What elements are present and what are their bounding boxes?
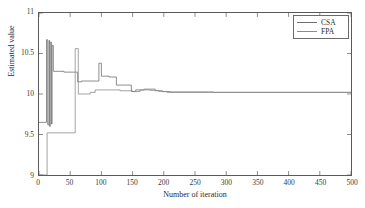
x-tick-label: 300 [221, 179, 232, 187]
x-tick-label: 0 [36, 179, 40, 187]
y-tick-label: 11 [27, 8, 34, 16]
legend-swatch-fpa [297, 31, 317, 32]
chart-legend: CSA FPA [293, 15, 349, 39]
x-tick-label: 100 [95, 179, 106, 187]
x-tick-label: 350 [252, 179, 263, 187]
y-axis-tick-labels: 99.51010.511 [0, 12, 34, 176]
y-axis-title: Estimated value [8, 4, 16, 99]
legend-item-csa: CSA [297, 18, 345, 27]
legend-label-fpa: FPA [321, 28, 334, 36]
x-tick-label: 500 [346, 179, 357, 187]
y-tick-label: 9.5 [25, 131, 34, 139]
legend-swatch-csa [297, 22, 317, 23]
y-tick-label: 10.5 [21, 49, 34, 57]
y-tick-label: 9 [30, 172, 34, 180]
x-tick-label: 450 [315, 179, 326, 187]
x-tick-label: 150 [127, 179, 138, 187]
chart-figure: 99.51010.511 Estimated value CSA FPA 050… [0, 0, 365, 208]
y-tick-label: 10 [27, 90, 35, 98]
x-tick-label: 50 [66, 179, 74, 187]
plot-area: CSA FPA [38, 12, 352, 176]
legend-item-fpa: FPA [297, 27, 345, 36]
x-axis-title: Number of iteration [38, 191, 352, 199]
legend-label-csa: CSA [321, 19, 336, 27]
series-line-csa [39, 40, 351, 127]
x-tick-label: 250 [189, 179, 200, 187]
series-line-fpa [39, 49, 351, 175]
x-tick-label: 400 [284, 179, 295, 187]
x-tick-label: 200 [158, 179, 169, 187]
